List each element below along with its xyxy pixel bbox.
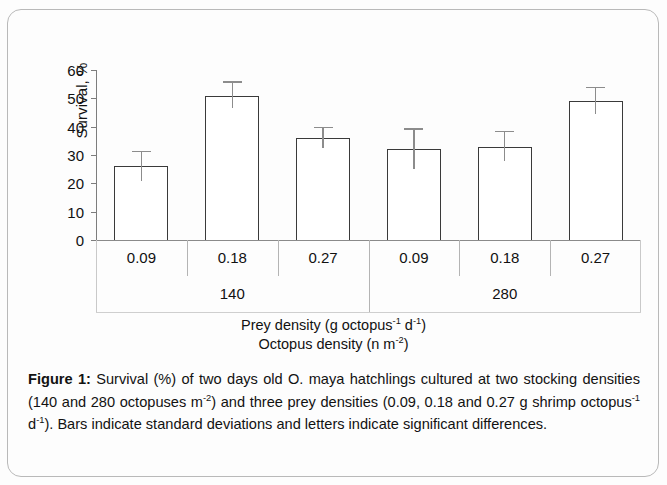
- prey-density-tick-label: 0.09: [369, 240, 460, 276]
- x-axis-title-octopus-density: Octopus density (n m-2): [0, 335, 667, 354]
- y-axis-tick: [91, 70, 96, 71]
- prey-density-tick-label: 0.18: [459, 240, 550, 276]
- y-axis-tick-label: 30: [44, 147, 84, 164]
- category-separator: [550, 240, 551, 276]
- prey-density-tick-label: 0.09: [96, 240, 187, 276]
- y-axis-tick-label: 20: [44, 175, 84, 192]
- error-bar: [413, 130, 414, 170]
- prey-density-text-pre: Prey density (g octopus: [241, 317, 393, 333]
- group-separator: [369, 240, 370, 312]
- prey-density-sup-1: -1: [393, 316, 401, 326]
- chart: Survival, % 0102030405060 0.090.180.270.…: [0, 0, 667, 360]
- octopus-density-group-label: 140: [96, 276, 369, 312]
- figure-page: Survival, % 0102030405060 0.090.180.270.…: [0, 0, 667, 485]
- error-bar: [595, 88, 596, 114]
- octopus-density-sup-1: -2: [395, 335, 403, 345]
- prey-density-tick-label: 0.27: [278, 240, 369, 276]
- figure-caption-part-3: d: [28, 416, 36, 432]
- y-axis-tick-label: 40: [44, 118, 84, 135]
- error-bar-cap: [314, 127, 333, 128]
- error-bar-cap: [586, 87, 605, 88]
- prey-density-sup-2: -1: [413, 316, 421, 326]
- bar-series: [96, 70, 641, 240]
- error-bar-cap: [223, 81, 242, 82]
- bar-group: [96, 70, 187, 240]
- y-axis-tick-label: 50: [44, 90, 84, 107]
- prey-density-tick-label: 0.27: [550, 240, 641, 276]
- bar-group: [278, 70, 369, 240]
- figure-caption-part-4: ). Bars indicate standard deviations and…: [44, 416, 547, 432]
- y-axis-tick: [91, 127, 96, 128]
- octopus-density-group-label: 280: [369, 276, 642, 312]
- octopus-density-group-row: 140280: [96, 276, 641, 312]
- y-axis-tick-labels: 0102030405060: [44, 60, 84, 242]
- y-axis-tick: [91, 183, 96, 184]
- figure-caption-part-2: ) and three prey densities (0.09, 0.18 a…: [211, 394, 631, 410]
- error-bar: [322, 128, 323, 148]
- figure-caption-sup-2: -1: [632, 393, 640, 403]
- figure-caption-sup-1: -2: [203, 393, 211, 403]
- prey-density-tick-label: 0.18: [187, 240, 278, 276]
- category-separator: [187, 240, 188, 276]
- y-axis-tick: [91, 98, 96, 99]
- prey-density-text-post: ): [421, 317, 426, 333]
- error-bar-cap: [404, 128, 423, 129]
- bar-group: [187, 70, 278, 240]
- bar: [205, 96, 259, 241]
- bar-group: [550, 70, 641, 240]
- figure-caption-label: Figure 1:: [28, 371, 91, 387]
- y-axis-tick-label: 0: [44, 232, 84, 249]
- octopus-density-text-pre: Octopus density (n m: [258, 336, 395, 352]
- x-axis-title-prey-density: Prey density (g octopus-1 d-1): [0, 316, 667, 335]
- category-axis: 0.090.180.270.090.180.27 140280: [96, 240, 641, 312]
- prey-density-text-mid: d: [401, 317, 413, 333]
- y-axis-tick: [91, 155, 96, 156]
- error-bar: [504, 132, 505, 160]
- category-separator: [278, 240, 279, 276]
- category-separator: [459, 240, 460, 276]
- bar: [296, 138, 350, 240]
- bar: [569, 101, 623, 240]
- y-axis-tick-label: 60: [44, 62, 84, 79]
- error-bar-cap: [495, 131, 514, 132]
- error-bar: [141, 152, 142, 180]
- y-axis-tick: [91, 212, 96, 213]
- category-frame-bottom: [96, 312, 641, 313]
- error-bar: [232, 83, 233, 109]
- figure-caption: Figure 1: Survival (%) of two days old O…: [28, 368, 640, 436]
- bar-group: [369, 70, 460, 240]
- plot-area: [96, 70, 641, 240]
- y-axis-tick-label: 10: [44, 203, 84, 220]
- x-axis-titles: Prey density (g octopus-1 d-1) Octopus d…: [0, 316, 667, 354]
- octopus-density-text-post: ): [404, 336, 409, 352]
- error-bar-cap: [132, 151, 151, 152]
- bar-group: [459, 70, 550, 240]
